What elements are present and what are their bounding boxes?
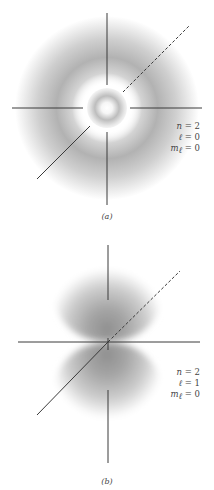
l-value: = 1: [182, 378, 200, 388]
caption-b: (b): [101, 477, 112, 486]
orbital-2s-inner-core: [87, 88, 127, 128]
n-value: = 2: [182, 367, 200, 377]
svg-text:ℓ = 0: ℓ = 0: [179, 132, 200, 142]
n-value: = 2: [182, 121, 200, 131]
svg-text:n = 2: n = 2: [177, 367, 200, 377]
hydrogen-orbital-figure: n = 2 ℓ = 0 mℓ = 0 (a) n = 2 ℓ = 1: [0, 0, 214, 490]
ml-value: = 0: [182, 143, 200, 153]
caption-a: (a): [101, 212, 112, 221]
svg-text:n = 2: n = 2: [177, 121, 200, 131]
svg-text:ℓ = 1: ℓ = 1: [179, 378, 200, 388]
ml-value: = 0: [182, 389, 200, 399]
l-value: = 0: [182, 132, 200, 142]
